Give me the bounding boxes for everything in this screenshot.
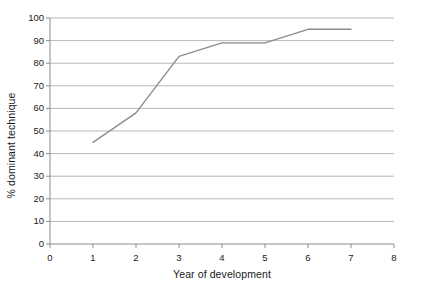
y-axis-tick-label: 60: [22, 104, 44, 114]
line-chart: 100 90 80 70 60 50 40 30 20 10 0 0 1 2 3…: [0, 0, 424, 291]
x-axis-tick-label: 2: [124, 253, 148, 263]
y-axis-tick-label: 40: [22, 149, 44, 159]
y-axis-tick-label: 90: [22, 36, 44, 46]
y-axis-tick-label: 10: [22, 217, 44, 227]
x-axis-title: Year of development: [50, 268, 394, 280]
x-axis-tick-label: 3: [167, 253, 191, 263]
y-axis-tick-label: 30: [22, 171, 44, 181]
x-axis-tick-label: 7: [339, 253, 363, 263]
y-axis-tick-label: 50: [22, 126, 44, 136]
plot-area: [0, 0, 424, 291]
x-axis-tick-label: 5: [253, 253, 277, 263]
y-axis-ticks: [46, 18, 50, 244]
x-axis-tick-label: 6: [296, 253, 320, 263]
y-axis-tick-labels: 100 90 80 70 60 50 40 30 20 10 0: [20, 0, 44, 291]
x-axis-tick-label: 4: [210, 253, 234, 263]
x-axis-tick-labels: 0 1 2 3 4 5 6 7 8: [0, 253, 424, 267]
y-axis-tick-label: 100: [22, 13, 44, 23]
horizontal-gridlines: [50, 18, 394, 221]
y-axis-tick-label: 20: [22, 194, 44, 204]
x-axis-tick-label: 0: [38, 253, 62, 263]
y-axis-tick-label: 0: [22, 239, 44, 249]
y-axis-tick-label: 80: [22, 58, 44, 68]
y-axis-tick-label: 70: [22, 81, 44, 91]
x-axis-tick-label: 1: [81, 253, 105, 263]
x-axis-ticks: [50, 244, 394, 248]
x-axis-tick-label: 8: [382, 253, 406, 263]
y-axis-title: % dominant technique: [0, 0, 22, 291]
